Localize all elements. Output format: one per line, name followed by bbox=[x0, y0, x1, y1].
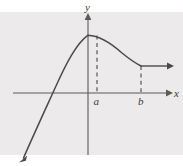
function-curve bbox=[19, 35, 141, 162]
y-axis-label: y bbox=[85, 2, 90, 13]
function-graph-figure: y x a b bbox=[0, 0, 183, 166]
curve-arrowhead-icon bbox=[19, 156, 27, 163]
tick-label-b: b bbox=[138, 96, 144, 107]
curve-path bbox=[24, 35, 142, 158]
x-axis-arrowhead-icon bbox=[166, 90, 173, 97]
x-axis-label: x bbox=[174, 88, 179, 99]
tick-label-a: a bbox=[94, 96, 100, 107]
horizontal-ray bbox=[141, 63, 174, 70]
y-axis bbox=[85, 13, 92, 155]
y-axis-arrowhead-icon bbox=[85, 13, 92, 20]
graph-canvas bbox=[0, 0, 183, 166]
ray-arrowhead-icon bbox=[167, 63, 174, 70]
